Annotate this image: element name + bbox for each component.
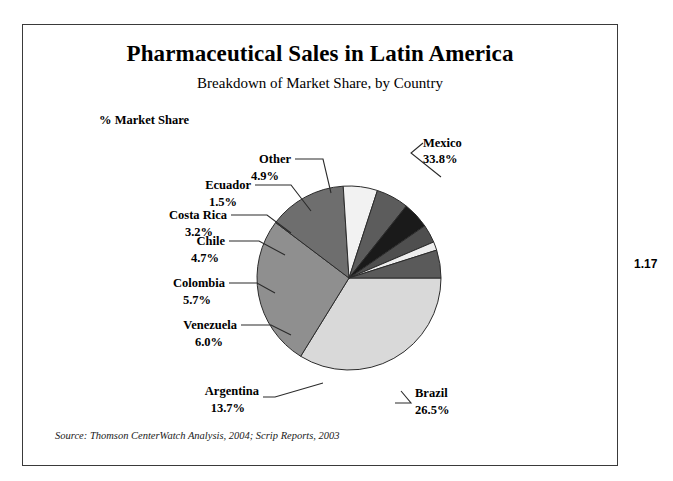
- slice-label-brazil: Brazil: [415, 386, 448, 400]
- leader-line-brazil: [395, 391, 411, 403]
- slice-value-other: 4.9%: [251, 169, 279, 183]
- leader-line-argentina: [263, 383, 323, 397]
- figure-number: 1.17: [634, 257, 657, 271]
- slice-value-venezuela: 6.0%: [195, 335, 223, 349]
- slice-value-argentina: 13.7%: [211, 401, 245, 415]
- figure-frame: Pharmaceutical Sales in Latin America Br…: [22, 24, 618, 466]
- slice-label-ecuador: Ecuador: [205, 178, 251, 192]
- slice-label-other: Other: [259, 152, 291, 166]
- slice-label-colombia: Colombia: [173, 276, 226, 290]
- slice-value-costarica: 3.2%: [185, 225, 213, 239]
- slice-label-mexico: Mexico: [423, 136, 462, 150]
- slice-label-argentina: Argentina: [205, 384, 260, 398]
- slice-label-venezuela: Venezuela: [183, 318, 237, 332]
- slice-label-costarica: Costa Rica: [169, 208, 228, 222]
- source-note: Source: Thomson CenterWatch Analysis, 20…: [55, 430, 340, 441]
- pie-chart: Mexico 33.8% Brazil 26.5% Argentina 13.7…: [23, 25, 619, 467]
- pie-slice-group: [257, 186, 441, 370]
- slice-value-chile: 4.7%: [191, 251, 219, 265]
- slice-value-ecuador: 1.5%: [209, 195, 237, 209]
- slice-value-colombia: 5.7%: [183, 293, 211, 307]
- slice-value-mexico: 33.8%: [423, 152, 457, 166]
- leader-line-other: [295, 159, 331, 193]
- slice-value-brazil: 26.5%: [415, 403, 449, 417]
